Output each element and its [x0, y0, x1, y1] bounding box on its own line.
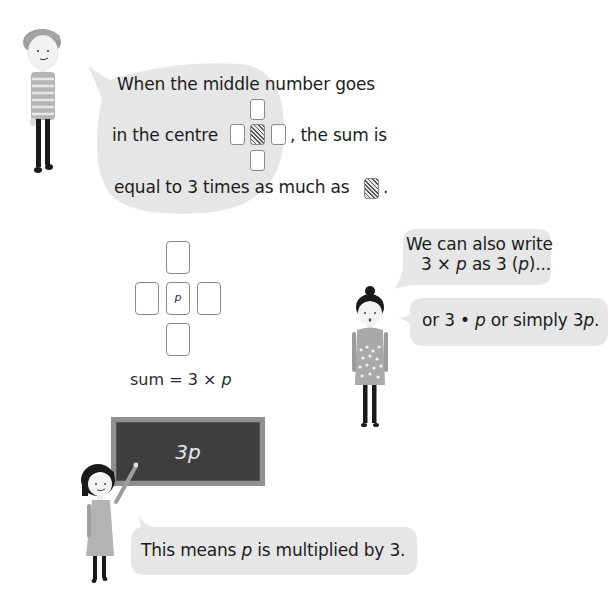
- bubble-right-1-var: p: [456, 254, 467, 274]
- bubble-right-1-text-c: )...: [529, 254, 551, 274]
- bubble-right-1-line2: 3 × p as 3 (p)...: [421, 254, 551, 274]
- sum-caption-prefix: sum = 3 ×: [130, 370, 221, 389]
- mini-card-right: [271, 124, 286, 145]
- card-center: p: [166, 282, 190, 315]
- bubble-top-line2-before: in the centre: [112, 125, 218, 145]
- card-left: [135, 282, 159, 315]
- bubble-top-line2-after: , the sum is: [290, 125, 387, 145]
- bubble-bottom-text-b: is multiplied by 3.: [252, 540, 405, 560]
- card-bottom: [166, 323, 190, 356]
- bubble-right-2-var1: p: [475, 310, 486, 330]
- bubble-right-2-text-a: or 3 •: [422, 310, 475, 330]
- bubble-top-line3-before: equal to 3 times as much as: [114, 177, 349, 197]
- bubble-top-line1: When the middle number goes: [117, 74, 375, 94]
- sum-caption-var: p: [221, 370, 231, 389]
- bubble-right-2-text-b: or simply 3: [486, 310, 584, 330]
- card-top: [166, 241, 190, 274]
- card-right: [197, 282, 221, 315]
- bubble-right-1-line1: We can also write: [406, 234, 553, 254]
- bubble-right-2-text: or 3 • p or simply 3p.: [422, 310, 599, 330]
- mini-card-center: [250, 124, 265, 145]
- mini-card-hatched-inline: [364, 178, 379, 199]
- bubble-right-1-text-b: as 3 (: [467, 254, 519, 274]
- bubble-right-1-var2: p: [518, 254, 529, 274]
- sum-caption: sum = 3 × p: [130, 370, 232, 389]
- bubble-bottom-text-a: This means: [141, 540, 241, 560]
- bubble-top-line3-after: .: [383, 177, 388, 197]
- bubble-right-1-text-a: 3 ×: [421, 254, 456, 274]
- bubble-bottom-var: p: [241, 540, 252, 560]
- boy-character-icon: [18, 22, 68, 182]
- bubble-right-2-text-c: .: [594, 310, 599, 330]
- mini-card-top: [250, 99, 265, 120]
- mini-card-bottom: [250, 150, 265, 171]
- bubble-top-line3: equal to 3 times as much as: [114, 177, 349, 197]
- bubble-bottom-text: This means p is multiplied by 3.: [141, 540, 405, 560]
- bubble-right-2-var2: p: [583, 310, 594, 330]
- mini-card-left: [230, 124, 245, 145]
- card-center-label: p: [167, 291, 189, 304]
- girl-bun-character-icon: [348, 285, 392, 430]
- bubble-top-line2: in the centre: [112, 125, 218, 145]
